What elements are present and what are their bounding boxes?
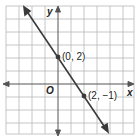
point-label-2-neg1: (2, −1) [88, 91, 117, 101]
y-axis-arrow-up [56, 6, 61, 12]
point-label-0-2: (0, 2) [62, 52, 85, 62]
point-0-2 [56, 55, 59, 58]
graph-canvas [0, 0, 137, 139]
y-axis-arrow-down [56, 130, 61, 136]
plotted-line [24, 7, 108, 132]
x-axis-arrow-right [128, 82, 134, 87]
point-2-neg1 [82, 94, 85, 97]
x-axis-label: x [127, 88, 133, 98]
origin-label: O [46, 86, 54, 96]
grid-lines [6, 6, 134, 134]
x-axis-arrow-left [3, 82, 9, 87]
coordinate-graph: y x O (0, 2) (2, −1) [0, 0, 137, 139]
y-axis-label: y [47, 7, 53, 17]
